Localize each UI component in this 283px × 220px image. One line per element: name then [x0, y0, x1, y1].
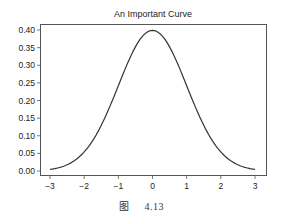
y-tick-label: 0.35 — [18, 43, 35, 53]
y-tick-label: 0.30 — [18, 60, 35, 70]
y-tick-label: 0.25 — [18, 78, 35, 88]
y-axis: 0.000.050.100.150.200.250.300.350.40 — [18, 25, 40, 176]
x-tick-label: 2 — [218, 181, 223, 191]
x-tick-label: 1 — [184, 181, 189, 191]
x-tick-label: −2 — [79, 181, 89, 191]
x-axis: −3−2−10123 — [45, 176, 257, 192]
chart-title: An Important Curve — [114, 9, 192, 19]
figure-label: 图 — [119, 201, 130, 212]
data-line — [50, 30, 255, 169]
y-tick-label: 0.10 — [18, 131, 35, 141]
figure-caption: 图 4.13 — [0, 198, 283, 213]
x-tick-label: −1 — [113, 181, 123, 191]
plot-frame — [41, 25, 267, 176]
y-tick-label: 0.00 — [18, 166, 35, 176]
y-tick-label: 0.20 — [18, 96, 35, 106]
x-tick-label: 3 — [253, 181, 258, 191]
figure-number: 4.13 — [145, 201, 165, 212]
y-tick-label: 0.40 — [18, 25, 35, 35]
y-tick-label: 0.05 — [18, 148, 35, 158]
chart-figure: An Important Curve 0.000.050.100.150.200… — [0, 0, 283, 200]
x-tick-label: 0 — [150, 181, 155, 191]
x-tick-label: −3 — [45, 181, 55, 191]
y-tick-label: 0.15 — [18, 113, 35, 123]
